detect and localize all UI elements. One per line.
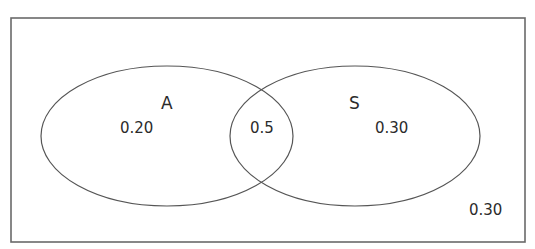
intersection-value: 0.5 bbox=[250, 121, 274, 136]
set-s-only-value: 0.30 bbox=[375, 121, 408, 136]
set-s-label: S bbox=[349, 95, 360, 112]
set-a-label: A bbox=[161, 95, 173, 112]
set-a-only-value: 0.20 bbox=[120, 121, 153, 136]
outside-value: 0.30 bbox=[469, 203, 502, 218]
